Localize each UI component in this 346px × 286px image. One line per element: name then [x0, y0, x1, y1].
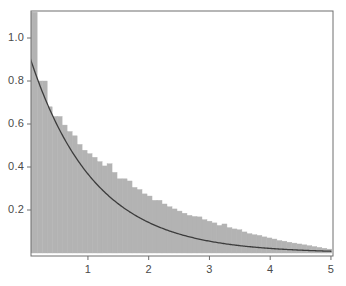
histogram-bar — [247, 234, 252, 253]
histogram-bar — [182, 213, 187, 253]
x-axis-tick-label: 1 — [76, 263, 100, 275]
histogram-bar — [137, 190, 142, 253]
y-axis-tick-label: 0.4 — [0, 160, 24, 172]
x-axis-tick-label: 5 — [319, 263, 343, 275]
histogram-bar — [52, 116, 57, 253]
histogram-bar — [97, 162, 102, 253]
histogram-bar — [232, 229, 237, 253]
histogram-bar — [292, 243, 297, 253]
histogram-bar — [262, 237, 267, 253]
histogram-bar — [152, 200, 157, 253]
histogram-bar — [142, 194, 147, 253]
histogram-bar — [172, 209, 177, 253]
histogram-bar — [87, 154, 92, 253]
histogram-bar — [62, 125, 67, 253]
histogram-bar — [257, 235, 262, 253]
histogram-bar — [102, 166, 107, 253]
y-axis-tick-label: 0.6 — [0, 117, 24, 129]
histogram-bar — [277, 241, 282, 253]
histogram-bar — [92, 157, 97, 253]
histogram-figure: 0.20.40.60.81.0 12345 — [0, 0, 346, 286]
x-axis-tick-label: 4 — [258, 263, 282, 275]
histogram-bar — [207, 221, 212, 253]
histogram-bar — [302, 245, 307, 253]
histogram-bar — [272, 239, 277, 253]
histogram-bar — [242, 232, 247, 253]
histogram-bar — [82, 150, 87, 253]
histogram-bar — [312, 247, 317, 253]
histogram-bar — [127, 181, 132, 253]
histogram-bar — [287, 242, 292, 253]
histogram-bar — [147, 196, 152, 253]
y-axis-tick-label: 0.2 — [0, 203, 24, 215]
y-axis-tick-label: 0.8 — [0, 74, 24, 86]
histogram-bar — [107, 164, 112, 253]
histogram-bar — [57, 116, 62, 253]
histogram-bar — [42, 81, 47, 253]
x-axis-tick-label: 2 — [137, 263, 161, 275]
histogram-bar — [252, 235, 257, 253]
histogram-bar — [117, 179, 122, 253]
histogram-bar — [197, 217, 202, 253]
histogram-bar — [217, 225, 222, 253]
histogram-bar — [37, 81, 42, 253]
histogram-bar — [132, 187, 137, 253]
x-axis-tick-label: 3 — [197, 263, 221, 275]
histogram-bar — [267, 238, 272, 253]
histogram-bar — [282, 241, 287, 253]
histogram-bar — [297, 244, 302, 253]
histogram-bar — [227, 228, 232, 253]
histogram-bar — [47, 107, 52, 253]
histogram-bar — [192, 216, 197, 253]
histogram-bar — [202, 220, 207, 253]
histogram-bar — [212, 223, 217, 253]
histogram-bar — [177, 211, 182, 253]
histogram-bar — [112, 172, 117, 253]
plot-svg — [0, 0, 346, 286]
histogram-bar — [307, 246, 312, 253]
histogram-bar — [222, 224, 227, 253]
histogram-bar — [122, 179, 127, 253]
histogram-bar — [237, 230, 242, 253]
histogram-bars — [27, 12, 332, 253]
histogram-bar — [32, 12, 37, 253]
histogram-bar — [187, 215, 192, 253]
y-axis-tick-label: 1.0 — [0, 31, 24, 43]
